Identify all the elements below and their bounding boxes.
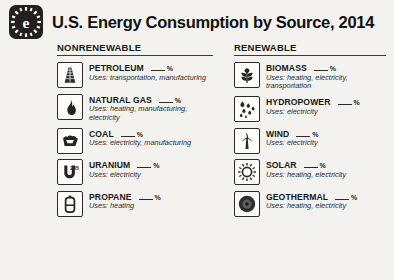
column-renewable: RENEWABLE <box>234 42 394 222</box>
source-name-line: PETROLEUM % <box>89 63 206 73</box>
sun-e-logo-icon: e <box>9 5 43 39</box>
source-name: WIND <box>266 129 289 139</box>
source-row-wind: WIND % Uses: electricity <box>234 128 394 154</box>
source-name-line: URANIUM % <box>89 160 160 170</box>
source-uses: Uses: electricity <box>89 171 160 180</box>
infographic-page: e U.S. Energy Consumption by Source, 201… <box>0 0 394 280</box>
source-info: PETROLEUM % Uses: transportation, manufa… <box>89 62 206 82</box>
source-name-line: COAL % <box>89 129 191 139</box>
source-info: GEOTHERMAL % Uses: heating, electricity <box>266 191 357 211</box>
plant-leaves-icon <box>234 62 260 88</box>
source-name: BIOMASS <box>266 63 307 73</box>
source-row-propane: PROPANE % Uses: heating <box>57 191 225 217</box>
uranium-235-icon: 235 <box>57 159 83 185</box>
percent-blank[interactable] <box>139 192 153 200</box>
source-info: SOLAR % Uses: heating, electricity <box>266 159 346 179</box>
source-name-line: BIOMASS % <box>266 63 384 73</box>
column-nonrenewable: NONRENEWABLE <box>57 42 225 222</box>
source-name: NATURAL GAS <box>89 95 152 105</box>
svg-text:235: 235 <box>70 165 79 171</box>
column-heading-nonrenewable: NONRENEWABLE <box>57 42 213 56</box>
percent-blank[interactable] <box>151 63 165 71</box>
source-uses: Uses: electricity, manufacturing <box>89 139 191 148</box>
percent-blank[interactable] <box>335 192 349 200</box>
source-name: COAL <box>89 129 114 139</box>
source-info: WIND % Uses: electricity <box>266 128 319 148</box>
source-uses: Uses: heating <box>89 202 161 211</box>
source-uses: Uses: heating, electricity <box>266 202 357 211</box>
wind-turbine-icon <box>234 128 260 154</box>
percent-blank[interactable] <box>137 160 151 168</box>
percent-blank[interactable] <box>121 129 135 137</box>
percent-blank[interactable] <box>338 97 352 105</box>
percent-symbol: % <box>137 131 143 138</box>
source-uses: Uses: heating, electricity, transportati… <box>266 74 384 91</box>
source-name: SOLAR <box>266 160 297 170</box>
source-row-solar: SOLAR % Uses: heating, electricity <box>234 159 394 185</box>
percent-symbol: % <box>354 99 360 106</box>
source-name-line: NATURAL GAS % <box>89 95 213 105</box>
percent-symbol: % <box>330 65 336 72</box>
coal-lump-icon <box>57 128 83 154</box>
source-info: HYDROPOWER % Uses: electricity <box>266 96 360 116</box>
source-uses: Uses: heating, manufacturing, electricit… <box>89 105 213 122</box>
source-name: PETROLEUM <box>89 63 144 73</box>
percent-blank[interactable] <box>159 95 173 103</box>
percent-symbol: % <box>175 97 181 104</box>
sun-icon <box>234 159 260 185</box>
percent-symbol: % <box>351 194 357 201</box>
source-name-line: GEOTHERMAL % <box>266 192 357 202</box>
source-row-hydropower: HYDROPOWER % Uses: electricity <box>234 96 394 122</box>
percent-symbol: % <box>153 162 159 169</box>
source-uses: Uses: electricity <box>266 108 360 117</box>
source-uses: Uses: transportation, manufacturing <box>89 74 206 83</box>
source-name: PROPANE <box>89 192 132 202</box>
source-row-uranium: 235 URANIUM % Uses: electricity <box>57 159 225 185</box>
percent-blank[interactable] <box>304 160 318 168</box>
propane-tank-icon <box>57 191 83 217</box>
source-row-natural-gas: NATURAL GAS % Uses: heating, manufacturi… <box>57 94 225 123</box>
percent-symbol: % <box>167 65 173 72</box>
earth-cross-section-icon <box>234 191 260 217</box>
source-name: HYDROPOWER <box>266 97 331 107</box>
source-columns: NONRENEWABLE <box>0 42 394 222</box>
source-uses: Uses: heating, electricity <box>266 171 346 180</box>
source-name-line: SOLAR % <box>266 160 346 170</box>
oil-derrick-icon <box>57 62 83 88</box>
column-heading-renewable: RENEWABLE <box>234 42 386 56</box>
source-info: BIOMASS % Uses: heating, electricity, tr… <box>266 62 384 91</box>
source-uses: Uses: electricity <box>266 139 319 148</box>
source-row-geothermal: GEOTHERMAL % Uses: heating, electricity <box>234 191 394 217</box>
source-row-petroleum: PETROLEUM % Uses: transportation, manufa… <box>57 62 225 88</box>
source-info: NATURAL GAS % Uses: heating, manufacturi… <box>89 94 213 123</box>
percent-symbol: % <box>320 162 326 169</box>
source-info: URANIUM % Uses: electricity <box>89 159 160 179</box>
flame-icon <box>57 94 83 120</box>
source-name-line: PROPANE % <box>89 192 161 202</box>
header: e U.S. Energy Consumption by Source, 201… <box>0 0 394 38</box>
source-info: COAL % Uses: electricity, manufacturing <box>89 128 191 148</box>
water-droplets-icon <box>234 96 260 122</box>
source-name: GEOTHERMAL <box>266 192 328 202</box>
source-row-coal: COAL % Uses: electricity, manufacturing <box>57 128 225 154</box>
source-row-biomass: BIOMASS % Uses: heating, electricity, tr… <box>234 62 394 91</box>
source-name: URANIUM <box>89 160 130 170</box>
source-info: PROPANE % Uses: heating <box>89 191 161 211</box>
source-name-line: WIND % <box>266 129 319 139</box>
source-name-line: HYDROPOWER % <box>266 97 360 107</box>
percent-blank[interactable] <box>314 63 328 71</box>
svg-text:e: e <box>23 14 30 31</box>
percent-symbol: % <box>155 194 161 201</box>
percent-symbol: % <box>312 131 318 138</box>
page-title: U.S. Energy Consumption by Source, 2014 <box>52 14 374 31</box>
percent-blank[interactable] <box>296 129 310 137</box>
